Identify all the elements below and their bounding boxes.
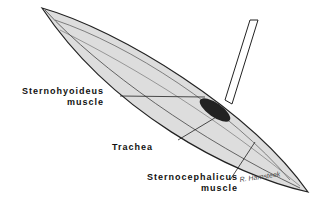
label-text: muscle [12,97,104,108]
label-text: muscle [138,183,238,194]
label-text: Sternohyoideus [12,86,104,97]
label-sternohyoideus: Sternohyoideus muscle [12,86,104,108]
label-sternocephalicus: Sternocephalicus muscle [138,172,238,194]
label-trachea: Trachea [112,142,153,153]
label-text: Sternocephalicus [138,172,238,183]
illustration: R. Harnsteek Sternohyoideus muscle Trach… [0,0,324,199]
